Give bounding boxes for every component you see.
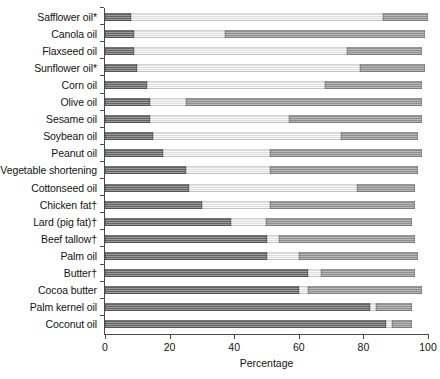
stacked-bar-chart: Safflower oil*Canola oilFlaxseed oilSunf… bbox=[0, 0, 440, 379]
bar-segment-saturated-fat bbox=[105, 269, 308, 277]
category-label: Palm oil bbox=[60, 250, 97, 262]
x-axis-tick bbox=[170, 334, 171, 339]
bar-segment-polyunsaturated-fat bbox=[267, 235, 280, 243]
y-axis-tick bbox=[100, 264, 104, 265]
bar-segment-polyunsaturated-fat bbox=[202, 201, 270, 209]
category-label: Lard (pig fat)† bbox=[33, 216, 97, 228]
bar-segment-monounsaturated-fat bbox=[360, 64, 425, 72]
stacked-bar[interactable] bbox=[105, 98, 428, 106]
y-axis-tick bbox=[100, 58, 104, 59]
bar-segment-saturated-fat bbox=[105, 201, 202, 209]
stacked-bar[interactable] bbox=[105, 115, 428, 123]
x-axis-tick bbox=[105, 334, 106, 339]
bar-segment-monounsaturated-fat bbox=[325, 81, 422, 89]
stacked-bar[interactable] bbox=[105, 166, 428, 174]
chart-row: Cocoa butter bbox=[105, 282, 428, 299]
stacked-bar[interactable] bbox=[105, 30, 428, 38]
stacked-bar[interactable] bbox=[105, 269, 428, 277]
chart-row: Peanut oil bbox=[105, 145, 428, 162]
stacked-bar[interactable] bbox=[105, 64, 428, 72]
y-axis-tick bbox=[100, 298, 104, 299]
category-label: Peanut oil bbox=[51, 147, 97, 159]
bar-segment-monounsaturated-fat bbox=[376, 303, 412, 311]
bar-segment-monounsaturated-fat bbox=[341, 132, 419, 140]
chart-row: Chicken fat† bbox=[105, 196, 428, 213]
chart-row: Olive oil bbox=[105, 94, 428, 111]
bar-segment-saturated-fat bbox=[105, 47, 134, 55]
y-axis-tick bbox=[100, 93, 104, 94]
bar-segment-monounsaturated-fat bbox=[308, 286, 421, 294]
chart-row: Flaxseed oil bbox=[105, 42, 428, 59]
bar-segment-saturated-fat bbox=[105, 320, 386, 328]
stacked-bar[interactable] bbox=[105, 132, 428, 140]
chart-row: Safflower oil* bbox=[105, 8, 428, 25]
x-axis-tick-label: 0 bbox=[102, 341, 108, 353]
bar-segment-monounsaturated-fat bbox=[266, 218, 411, 226]
chart-row: Palm kernel oil bbox=[105, 299, 428, 316]
bar-segment-saturated-fat bbox=[105, 252, 267, 260]
bar-segment-monounsaturated-fat bbox=[347, 47, 421, 55]
bar-segment-polyunsaturated-fat bbox=[308, 269, 321, 277]
x-axis-tick bbox=[234, 334, 235, 339]
x-axis-tick bbox=[299, 334, 300, 339]
bar-segment-saturated-fat bbox=[105, 184, 189, 192]
stacked-bar[interactable] bbox=[105, 303, 428, 311]
bar-segment-saturated-fat bbox=[105, 149, 163, 157]
y-axis-tick bbox=[100, 7, 104, 8]
bar-segment-monounsaturated-fat bbox=[270, 149, 422, 157]
y-axis-tick bbox=[100, 229, 104, 230]
y-axis-tick bbox=[100, 41, 104, 42]
stacked-bar[interactable] bbox=[105, 218, 428, 226]
bar-segment-monounsaturated-fat bbox=[299, 252, 419, 260]
y-axis-tick bbox=[100, 195, 104, 196]
category-label: Vegetable shortening bbox=[0, 164, 97, 176]
category-label: Beef tallow† bbox=[41, 233, 97, 245]
bar-segment-saturated-fat bbox=[105, 218, 231, 226]
chart-row: Soybean oil bbox=[105, 128, 428, 145]
y-axis-tick bbox=[100, 212, 104, 213]
chart-row: Sunflower oil* bbox=[105, 59, 428, 76]
category-label: Cottonseed oil bbox=[31, 182, 97, 194]
category-label: Butter† bbox=[64, 267, 97, 279]
chart-row: Cottonseed oil bbox=[105, 179, 428, 196]
category-label: Chicken fat† bbox=[40, 199, 97, 211]
bar-segment-polyunsaturated-fat bbox=[153, 132, 340, 140]
bar-segment-polyunsaturated-fat bbox=[134, 47, 347, 55]
bar-segment-polyunsaturated-fat bbox=[231, 218, 267, 226]
bar-segment-saturated-fat bbox=[105, 286, 299, 294]
stacked-bar[interactable] bbox=[105, 184, 428, 192]
stacked-bar[interactable] bbox=[105, 235, 428, 243]
stacked-bar[interactable] bbox=[105, 252, 428, 260]
bar-segment-saturated-fat bbox=[105, 30, 134, 38]
bar-segment-saturated-fat bbox=[105, 303, 370, 311]
bar-segment-polyunsaturated-fat bbox=[150, 115, 289, 123]
y-axis-tick bbox=[100, 161, 104, 162]
stacked-bar[interactable] bbox=[105, 13, 428, 21]
bar-segment-monounsaturated-fat bbox=[186, 98, 422, 106]
bar-segment-monounsaturated-fat bbox=[225, 30, 425, 38]
category-label: Safflower oil* bbox=[37, 11, 97, 23]
chart-row: Butter† bbox=[105, 265, 428, 282]
category-label: Sesame oil bbox=[46, 113, 97, 125]
chart-row: Palm oil bbox=[105, 247, 428, 264]
bar-segment-polyunsaturated-fat bbox=[163, 149, 270, 157]
stacked-bar[interactable] bbox=[105, 320, 428, 328]
y-axis-tick bbox=[100, 246, 104, 247]
stacked-bar[interactable] bbox=[105, 149, 428, 157]
x-axis-tick bbox=[428, 334, 429, 339]
category-label: Sunflower oil* bbox=[34, 62, 97, 74]
category-label: Palm kernel oil bbox=[30, 301, 97, 313]
chart-row: Lard (pig fat)† bbox=[105, 213, 428, 230]
stacked-bar[interactable] bbox=[105, 286, 428, 294]
bar-segment-monounsaturated-fat bbox=[321, 269, 415, 277]
bar-segment-polyunsaturated-fat bbox=[134, 30, 224, 38]
bar-segment-polyunsaturated-fat bbox=[267, 252, 299, 260]
stacked-bar[interactable] bbox=[105, 47, 428, 55]
stacked-bar[interactable] bbox=[105, 201, 428, 209]
bar-segment-saturated-fat bbox=[105, 166, 186, 174]
bar-segment-polyunsaturated-fat bbox=[137, 64, 360, 72]
x-axis-line bbox=[104, 334, 429, 335]
category-label: Canola oil bbox=[51, 28, 97, 40]
bar-segment-saturated-fat bbox=[105, 13, 131, 21]
stacked-bar[interactable] bbox=[105, 81, 428, 89]
